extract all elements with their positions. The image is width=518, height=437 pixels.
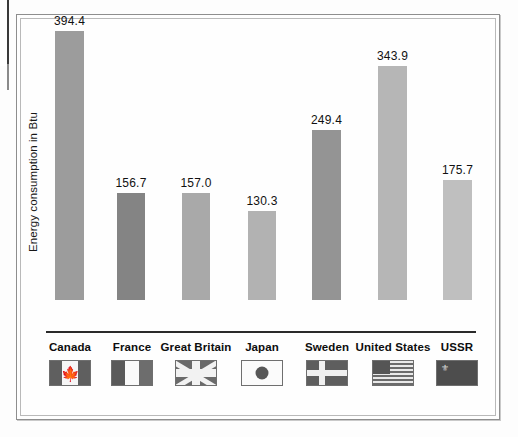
category-label-ussr: USSR xyxy=(419,341,495,353)
bar-great-britain[interactable]: 157.0 xyxy=(182,193,210,300)
bar-rect-united-states xyxy=(378,66,407,300)
bar-rect-sweden xyxy=(312,130,341,300)
bar-value-japan: 130.3 xyxy=(246,194,277,208)
bar-rect-ussr xyxy=(443,180,472,300)
plot-area: Energy consumption in Btu 394.4 156.7 15… xyxy=(16,14,500,420)
chart-page: Energy consumption in Btu 394.4 156.7 15… xyxy=(0,0,518,437)
category-ussr[interactable]: USSR ⚜ xyxy=(419,341,495,386)
flag-ussr-icon: ⚜ xyxy=(436,360,478,386)
x-axis-baseline xyxy=(46,331,476,333)
bar-canada[interactable]: 394.4 xyxy=(55,31,84,300)
bar-rect-france xyxy=(117,193,145,300)
bar-value-sweden: 249.4 xyxy=(311,113,342,127)
bar-value-canada: 394.4 xyxy=(54,14,85,28)
bar-value-ussr: 175.7 xyxy=(442,163,473,177)
bar-france[interactable]: 156.7 xyxy=(117,193,145,300)
bar-value-united-states: 343.9 xyxy=(377,49,408,63)
bar-sweden[interactable]: 249.4 xyxy=(312,130,341,300)
bar-rect-canada xyxy=(55,31,84,300)
flag-japan-icon xyxy=(241,360,283,386)
bar-ussr[interactable]: 175.7 xyxy=(443,180,472,300)
y-axis-title: Energy consumption in Btu xyxy=(27,87,39,277)
flag-uk-icon xyxy=(175,360,217,386)
bar-rect-japan xyxy=(248,211,276,300)
bar-japan[interactable]: 130.3 xyxy=(248,211,276,300)
flag-sweden-icon xyxy=(306,360,348,386)
bar-united-states[interactable]: 343.9 xyxy=(378,66,407,300)
scan-edge-artifact xyxy=(0,0,9,66)
bar-value-france: 156.7 xyxy=(115,176,146,190)
bar-value-great-britain: 157.0 xyxy=(180,176,211,190)
bar-rect-great-britain xyxy=(182,193,210,300)
flag-united-states-icon xyxy=(372,360,414,386)
flag-canada-icon: 🍁 xyxy=(49,360,91,386)
